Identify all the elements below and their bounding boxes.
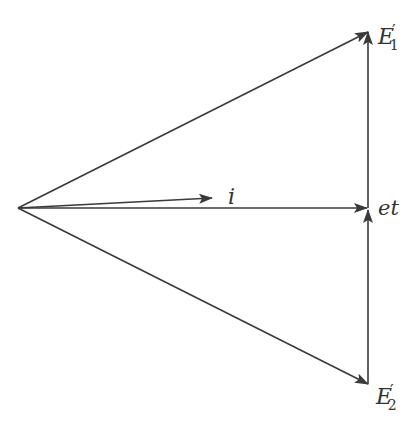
label-et: et (378, 196, 399, 220)
label-e2-prime: E′2 (375, 381, 397, 413)
phasor-diagram: E′1 et i E′2 (0, 0, 420, 427)
vector-i (18, 198, 212, 208)
vector-e1-prime (18, 32, 368, 208)
label-i: i (228, 184, 235, 209)
label-e1-prime: E′1 (377, 21, 399, 53)
vector-e2-prime (18, 208, 368, 384)
